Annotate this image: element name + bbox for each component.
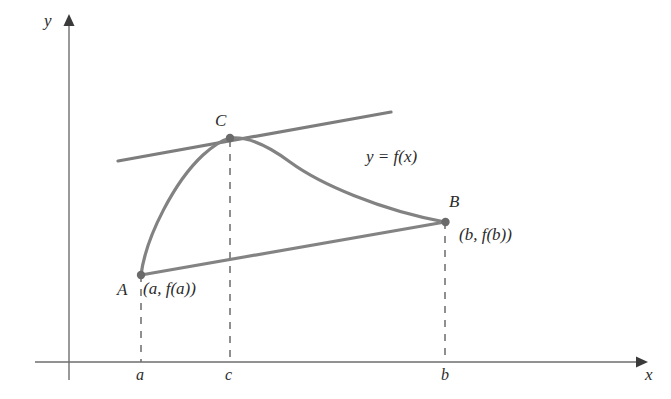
y-axis-label: y: [44, 12, 52, 29]
secant-line-ab: [141, 222, 445, 275]
y-axis-arrowhead-icon: [64, 14, 75, 26]
coordinate-label-b: (b, f(b)): [459, 226, 512, 243]
y-axis-group: [64, 14, 75, 380]
tangent-line-at-c: [118, 112, 391, 161]
figure-graphics: [0, 0, 671, 399]
point-c-marker: [226, 134, 234, 142]
point-label-b: B: [449, 193, 459, 210]
x-axis-label: x: [645, 366, 653, 383]
x-tick-label-a: a: [136, 367, 144, 383]
x-tick-label-c: c: [225, 367, 232, 383]
coordinate-label-a: (a, f(a)): [143, 280, 196, 297]
x-axis-group: [35, 357, 648, 368]
point-b-marker: [441, 218, 449, 226]
point-label-a: A: [117, 281, 127, 298]
point-label-c: C: [215, 112, 226, 129]
point-a-marker: [137, 271, 145, 279]
x-tick-label-b: b: [441, 367, 449, 383]
figure-canvas: y x a c b A B C (a, f(a)) (b, f(b)) y = …: [0, 0, 671, 399]
function-equation-label: y = f(x): [366, 148, 417, 165]
